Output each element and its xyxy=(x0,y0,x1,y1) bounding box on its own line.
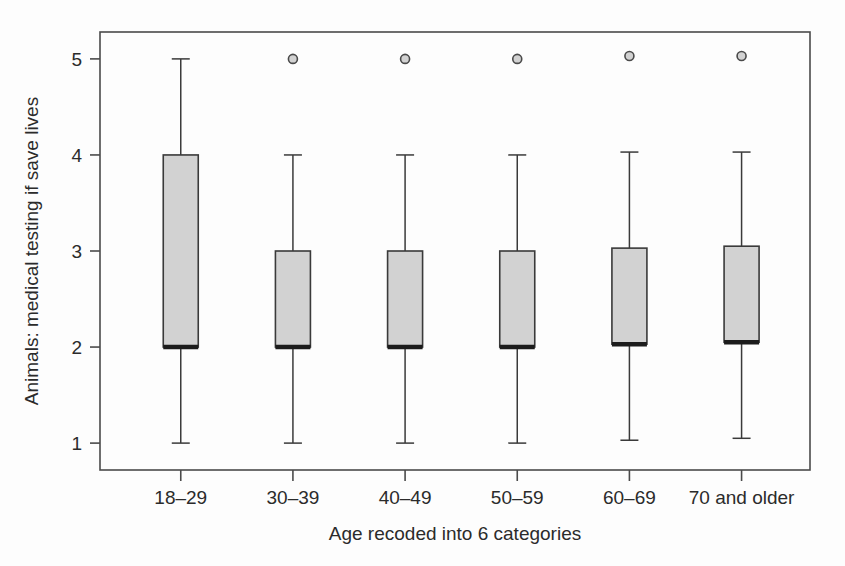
boxplot-item xyxy=(275,54,310,443)
x-tick-label: 40–49 xyxy=(379,487,432,508)
outlier-point xyxy=(625,52,634,61)
boxplot-item xyxy=(724,52,759,439)
x-axis-title: Age recoded into 6 categories xyxy=(329,523,581,544)
y-tick-label: 5 xyxy=(71,49,82,70)
outlier-point xyxy=(288,54,297,63)
boxplot-item xyxy=(612,52,647,441)
y-axis-title: Animals: medical testing if save lives xyxy=(21,97,42,405)
x-axis-ticks xyxy=(181,470,742,481)
y-tick-label: 4 xyxy=(71,145,82,166)
boxplot-item xyxy=(500,54,535,443)
y-tick-label: 1 xyxy=(71,433,82,454)
box-iqr xyxy=(612,248,647,344)
y-axis-ticks xyxy=(90,59,100,443)
box-series xyxy=(163,52,759,444)
x-tick-label: 70 and older xyxy=(689,487,795,508)
boxplot-item xyxy=(163,59,198,443)
x-tick-label: 18–29 xyxy=(154,487,207,508)
y-tick-label: 2 xyxy=(71,337,82,358)
boxplot-item xyxy=(388,54,423,443)
x-tick-label: 60–69 xyxy=(603,487,656,508)
x-tick-label: 30–39 xyxy=(267,487,320,508)
y-tick-label: 3 xyxy=(71,241,82,262)
box-iqr xyxy=(275,251,310,347)
box-iqr xyxy=(724,246,759,342)
outlier-point xyxy=(513,54,522,63)
outlier-point xyxy=(401,54,410,63)
box-iqr xyxy=(163,155,198,347)
x-tick-label: 50–59 xyxy=(491,487,544,508)
y-axis-tick-labels: 12345 xyxy=(71,49,82,454)
outlier-point xyxy=(737,52,746,61)
boxplot-figure: 12345 18–2930–3940–4950–5960–6970 and ol… xyxy=(0,0,845,566)
x-axis-tick-labels: 18–2930–3940–4950–5960–6970 and older xyxy=(154,487,795,508)
plot-border xyxy=(100,32,810,470)
plot-frame xyxy=(100,32,810,470)
box-iqr xyxy=(388,251,423,347)
box-iqr xyxy=(500,251,535,347)
boxplot-svg: 12345 18–2930–3940–4950–5960–6970 and ol… xyxy=(0,0,845,566)
